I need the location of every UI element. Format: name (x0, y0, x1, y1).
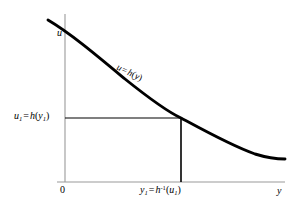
vertical-value-label: u1=h(y1) (14, 111, 49, 121)
origin-label: 0 (60, 185, 65, 195)
u1-lhs-subscript: 1 (19, 115, 22, 122)
function-curve (48, 20, 285, 159)
y1-argument-subscript: 1 (174, 189, 177, 196)
vertical-axis-label: u (57, 28, 62, 38)
horizontal-axis-label: y (277, 186, 281, 196)
y1-function-superscript: -1 (160, 184, 166, 191)
function-inverse-figure: u u=h(y) u1=h(y1) 0 y1=h-1(u1) y (0, 0, 295, 215)
u1-argument-subscript: 1 (43, 115, 46, 122)
y1-paren-close: ) (178, 184, 181, 195)
plot-canvas (0, 0, 295, 215)
u1-paren-close: ) (46, 110, 49, 121)
horizontal-value-label: y1=h-1(u1) (140, 185, 181, 195)
y1-lhs-subscript: 1 (144, 189, 147, 196)
u1-operator: = (22, 110, 30, 121)
